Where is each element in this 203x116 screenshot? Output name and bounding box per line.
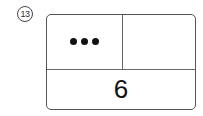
number-bond-box: 6 bbox=[46, 14, 196, 110]
dot-icon bbox=[70, 38, 77, 45]
bottom-total-cell: 6 bbox=[47, 70, 195, 109]
top-right-answer-cell[interactable] bbox=[123, 15, 195, 69]
top-left-cell bbox=[47, 15, 122, 69]
dot-icon bbox=[81, 38, 88, 45]
dot-icon bbox=[92, 38, 99, 45]
dot-group bbox=[70, 38, 99, 45]
problem-number-badge: 13 bbox=[17, 6, 33, 22]
